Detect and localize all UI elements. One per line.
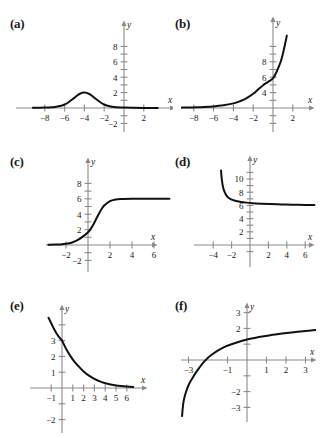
x-axis-label-d: x bbox=[307, 232, 313, 242]
x-tick-label-e-1: 1 bbox=[71, 393, 76, 403]
y-tick-label-f-2: −2 bbox=[231, 387, 241, 397]
x-tick-label-e-3: 3 bbox=[92, 393, 97, 403]
x-tick-label-d-0: −4 bbox=[208, 250, 218, 260]
x-tick-label-f-4: 3 bbox=[303, 365, 308, 375]
x-tick-label-b-0: −8 bbox=[189, 113, 199, 123]
y-axis-label-a: y bbox=[126, 20, 132, 30]
graph-panel-f: −3−112323−2−3xy bbox=[173, 296, 335, 434]
x-axis-label-c: x bbox=[150, 232, 156, 242]
y-tick-label-f-0: 2 bbox=[236, 324, 241, 334]
x-tick-label-f-1: −1 bbox=[223, 365, 233, 375]
y-tick-label-c-1: 4 bbox=[77, 210, 82, 220]
y-tick-label-e-3: −2 bbox=[46, 415, 56, 425]
y-axis-arrow-d bbox=[247, 156, 252, 162]
x-axis-arrow-d bbox=[309, 242, 315, 247]
graph-panel-d: −4−2246246810xy bbox=[173, 152, 335, 284]
x-tick-label-a-2: −4 bbox=[80, 113, 90, 123]
x-tick-label-d-4: 6 bbox=[303, 250, 308, 260]
x-tick-label-e-4: 4 bbox=[103, 393, 108, 403]
y-axis-label-f: y bbox=[249, 302, 255, 312]
y-tick-label-d-3: 8 bbox=[239, 188, 244, 198]
x-tick-label-b-3: −2 bbox=[248, 113, 258, 123]
y-tick-label-b-2: 8 bbox=[262, 57, 267, 67]
y-tick-label-a-0: 2 bbox=[113, 88, 118, 98]
y-tick-label-a-1: 4 bbox=[113, 73, 118, 83]
multi-panel-graph-figure: (a)−8−6−4−222468−2xy(b)−8−6−4−22468xy(c)… bbox=[0, 0, 335, 438]
y-tick-label-c-0: 2 bbox=[77, 225, 82, 235]
y-axis-label-d: y bbox=[252, 155, 258, 165]
y-tick-label-f-1: 3 bbox=[236, 308, 241, 318]
x-axis-arrow-e bbox=[142, 385, 148, 390]
x-tick-label-c-2: 4 bbox=[130, 250, 135, 260]
y-tick-label-c-4: −2 bbox=[72, 256, 82, 266]
x-tick-label-f-3: 2 bbox=[284, 365, 289, 375]
graph-panel-e: −1123456123−2xy bbox=[8, 296, 173, 434]
y-tick-label-a-3: 8 bbox=[113, 42, 118, 52]
x-tick-label-c-3: 6 bbox=[152, 250, 157, 260]
x-axis-arrow-c bbox=[152, 242, 158, 247]
curve-e bbox=[49, 318, 134, 387]
y-tick-label-d-1: 4 bbox=[239, 214, 244, 224]
x-axis-arrow-f bbox=[311, 357, 317, 362]
y-axis-arrow-b bbox=[270, 17, 275, 23]
x-tick-label-e-2: 2 bbox=[81, 393, 86, 403]
y-axis-arrow-c bbox=[85, 158, 90, 164]
graph-panel-c: −22462468−2xy bbox=[8, 152, 173, 284]
x-axis-arrow-b bbox=[309, 105, 315, 110]
graph-panel-b: −8−6−4−22468xy bbox=[173, 14, 335, 142]
x-axis-label-f: x bbox=[309, 347, 315, 357]
y-tick-label-c-2: 6 bbox=[77, 194, 82, 204]
curve-f bbox=[182, 330, 315, 416]
x-tick-label-f-2: 1 bbox=[264, 365, 269, 375]
y-tick-label-b-1: 6 bbox=[262, 73, 267, 83]
x-tick-label-f-0: −3 bbox=[184, 365, 194, 375]
y-axis-label-b: y bbox=[275, 18, 281, 28]
y-tick-label-c-3: 8 bbox=[77, 179, 82, 189]
x-tick-label-a-1: −6 bbox=[60, 113, 70, 123]
x-tick-label-e-5: 5 bbox=[114, 393, 119, 403]
y-axis-arrow-e bbox=[59, 305, 64, 311]
graph-panel-a: −8−6−4−222468−2xy bbox=[8, 14, 173, 142]
y-tick-label-a-2: 6 bbox=[113, 57, 118, 67]
x-tick-label-a-0: −8 bbox=[40, 113, 50, 123]
y-tick-label-f-3: −3 bbox=[231, 403, 241, 413]
x-tick-label-d-3: 4 bbox=[285, 250, 290, 260]
x-tick-label-b-2: −4 bbox=[229, 113, 239, 123]
y-tick-label-a-4: −2 bbox=[108, 119, 118, 129]
x-tick-label-e-6: 6 bbox=[125, 393, 130, 403]
x-tick-label-a-4: 2 bbox=[142, 113, 147, 123]
x-axis-label-b: x bbox=[307, 95, 313, 105]
x-tick-label-d-2: 2 bbox=[266, 250, 271, 260]
y-tick-label-e-1: 2 bbox=[51, 352, 56, 362]
x-tick-label-c-0: −2 bbox=[61, 250, 71, 260]
x-axis-label-e: x bbox=[140, 375, 146, 385]
x-tick-label-b-4: 2 bbox=[291, 113, 296, 123]
y-tick-label-e-2: 3 bbox=[51, 336, 56, 346]
x-tick-label-c-1: 2 bbox=[108, 250, 113, 260]
y-tick-label-e-0: 1 bbox=[51, 368, 56, 378]
y-axis-label-c: y bbox=[90, 157, 96, 167]
y-tick-label-b-0: 4 bbox=[262, 88, 267, 98]
y-tick-label-d-4: 10 bbox=[235, 174, 245, 184]
y-axis-arrow-a bbox=[121, 21, 126, 27]
y-tick-label-d-0: 2 bbox=[239, 227, 244, 237]
curve-a bbox=[33, 93, 158, 108]
x-tick-label-b-1: −6 bbox=[209, 113, 219, 123]
y-axis-arrow-f bbox=[244, 303, 249, 309]
x-tick-label-d-1: −2 bbox=[227, 250, 237, 260]
y-axis-label-e: y bbox=[64, 304, 70, 314]
x-tick-label-e-0: −1 bbox=[46, 393, 56, 403]
